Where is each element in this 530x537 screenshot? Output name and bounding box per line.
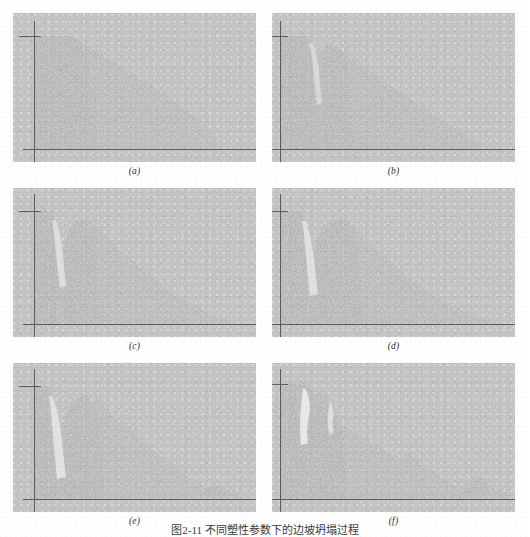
figure-caption: 图2-11 不同塑性参数下的边坡坍塌过程 [0, 524, 530, 537]
panel-label-c: (c) [13, 337, 256, 351]
panel-c-particle-mass [13, 188, 256, 337]
panel-e [13, 363, 256, 512]
panel-a [13, 13, 256, 162]
panel-grid: (a) (b) [0, 0, 530, 500]
panel-e-top-tick [19, 386, 41, 387]
panel-cell-a: (a) [13, 13, 256, 176]
panel-b-y-axis [280, 21, 281, 162]
panel-b-x-axis [272, 149, 515, 150]
panel-c-top-tick [19, 211, 41, 212]
panel-f-y-axis [280, 369, 281, 512]
panel-a-particle-mass [13, 13, 256, 162]
panel-d-x-axis [272, 324, 515, 325]
panel-c [13, 188, 256, 337]
panel-cell-d: (d) [272, 188, 515, 351]
panel-f-x-axis [272, 499, 515, 500]
panel-cell-e: (e) [13, 363, 256, 526]
panel-c-y-axis [34, 194, 35, 337]
panel-label-d: (d) [272, 337, 515, 351]
panel-e-y-axis [34, 369, 35, 512]
panel-d-particle-mass [272, 188, 515, 337]
panel-a-y-axis [34, 21, 35, 162]
panel-f-particle-mass [272, 363, 515, 512]
panel-e-particle-mass [13, 363, 256, 512]
panel-d [272, 188, 515, 337]
panel-b [272, 13, 515, 162]
panel-c-x-axis [23, 324, 256, 325]
figure-container: (a) (b) [0, 0, 530, 537]
panel-a-x-axis [23, 149, 256, 150]
panel-a-top-tick [19, 36, 41, 37]
panel-cell-b: (b) [272, 13, 515, 176]
panel-d-top-tick [272, 211, 288, 212]
panel-cell-f: (f) [272, 363, 515, 526]
panel-label-b: (b) [272, 162, 515, 176]
panel-b-particle-mass [272, 13, 515, 162]
panel-label-a: (a) [13, 162, 256, 176]
panel-b-top-tick [272, 36, 288, 37]
panel-d-y-axis [280, 194, 281, 337]
panel-cell-c: (c) [13, 188, 256, 351]
panel-f [272, 363, 515, 512]
panel-f-top-tick [272, 384, 288, 385]
panel-e-x-axis [23, 499, 256, 500]
